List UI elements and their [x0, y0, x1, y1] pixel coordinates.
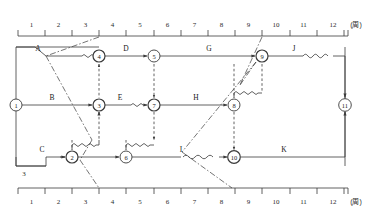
activity-label-E: E: [118, 93, 123, 102]
node-10: 10: [228, 151, 241, 164]
row-top-activities: [16, 47, 345, 98]
bottom-tick-8: 8: [220, 198, 224, 206]
row-bottom-activities: [16, 112, 345, 166]
activity-label-G: G: [206, 44, 212, 53]
node-1: 1: [10, 99, 22, 111]
row-middle-activities: [22, 104, 227, 107]
top-axis-unit: (周): [350, 21, 362, 29]
bottom-axis-numbers: 1 2 3 4 5 6 7 8 9 10 11 12 (周): [30, 198, 362, 206]
bottom-axis-group: [18, 188, 348, 194]
node-8: 8: [228, 99, 240, 111]
top-tick-9: 9: [247, 21, 251, 29]
node-2-label: 2: [70, 154, 73, 161]
node-11-label: 11: [342, 102, 348, 109]
top-tick-6: 6: [166, 21, 170, 29]
node-5: 5: [148, 50, 160, 62]
float-riser-6-to-7: [126, 144, 154, 151]
float-riser-8-to-9: [234, 92, 262, 99]
node-2: 2: [66, 151, 78, 163]
node-1-label: 1: [14, 102, 17, 109]
bottom-tick-5: 5: [138, 198, 142, 206]
node-9-label: 9: [260, 53, 263, 60]
top-axis-numbers: 1 2 3 4 5 6 7 8 9 10 11 12 (周): [30, 21, 362, 29]
projection-2-to-bottom-week3: [80, 160, 99, 188]
node-11: 11: [339, 99, 352, 112]
activity-label-C: C: [39, 145, 44, 154]
activity-C-path: [16, 157, 65, 166]
bottom-tick-10: 10: [273, 198, 281, 206]
top-tick-12: 12: [330, 21, 338, 29]
activity-label-B: B: [49, 93, 54, 102]
node-10-label: 10: [231, 154, 238, 161]
float-riser-2-to-3: [72, 140, 99, 150]
top-tick-10: 10: [273, 21, 281, 29]
network-diagram-canvas: 1 2 3 4 5 6 7 8 9 10 11 A B C D E G H I …: [0, 0, 375, 216]
bottom-tick-7: 7: [193, 198, 197, 206]
activity-label-A: A: [35, 44, 41, 53]
activity-E-float-wave: [131, 104, 143, 107]
activity-I-float-wave: [183, 155, 213, 159]
bottom-tick-12: 12: [330, 198, 338, 206]
node-6: 6: [120, 151, 132, 163]
activity-label-D: D: [123, 44, 129, 53]
top-tick-2: 2: [57, 21, 61, 29]
node-9: 9: [256, 50, 268, 62]
activity-J-float-wave: [303, 54, 328, 58]
projection-9-to-I: [182, 62, 256, 152]
top-tick-5: 5: [138, 21, 142, 29]
bottom-tick-1: 1: [30, 198, 34, 206]
top-axis-group: [18, 30, 348, 36]
node-7: 7: [148, 99, 160, 111]
node-3-label: 3: [97, 102, 100, 109]
bottom-tick-3: 3: [84, 198, 88, 206]
top-tick-4: 4: [111, 21, 115, 29]
bottom-tick-9: 9: [247, 198, 251, 206]
bottom-tick-11: 11: [300, 198, 307, 206]
top-tick-3: 3: [84, 21, 88, 29]
network-diagram: 1 2 3 4 5 6 7 8 9 10 11 A B C D E G H I …: [0, 0, 375, 216]
activity-label-K: K: [281, 145, 287, 154]
projection-top-week3-to-A: [46, 37, 99, 56]
activity-label-H: H: [193, 93, 199, 102]
top-tick-7: 7: [193, 21, 197, 29]
top-tick-1: 1: [30, 21, 34, 29]
activity-A-path: [16, 47, 82, 56]
stray-number-label: 3: [22, 170, 26, 178]
node-4: 4: [93, 50, 105, 62]
bottom-tick-2: 2: [57, 198, 61, 206]
top-tick-8: 8: [220, 21, 224, 29]
activity-A-float-wave: [82, 55, 94, 58]
node-8-label: 8: [232, 102, 235, 109]
activity-J-tail: [333, 56, 345, 98]
node-5-label: 5: [152, 53, 155, 60]
top-tick-11: 11: [300, 21, 307, 29]
bottom-tick-6: 6: [166, 198, 170, 206]
activity-label-I: I: [180, 145, 183, 154]
bottom-axis-unit: (周): [350, 198, 362, 206]
activity-label-J: J: [293, 44, 296, 53]
node-3: 3: [93, 99, 105, 111]
activity-K-path: [241, 112, 345, 157]
bottom-tick-4: 4: [111, 198, 115, 206]
